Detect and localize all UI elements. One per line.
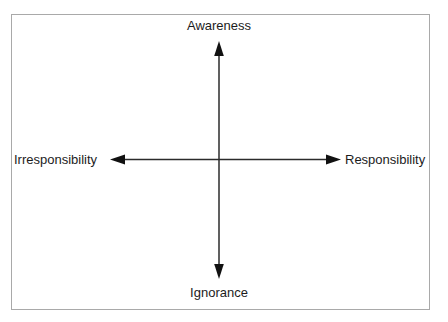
axis-label-responsibility: Responsibility: [345, 152, 425, 167]
axis-label-awareness: Awareness: [0, 18, 448, 33]
axis-label-ignorance: Ignorance: [0, 285, 448, 300]
axis-label-irresponsibility: Irresponsibility: [14, 152, 97, 167]
